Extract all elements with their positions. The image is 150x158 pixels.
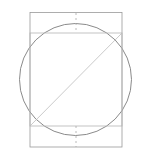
geometry-diagram (0, 0, 150, 158)
geometry-figure-canvas (0, 0, 150, 158)
